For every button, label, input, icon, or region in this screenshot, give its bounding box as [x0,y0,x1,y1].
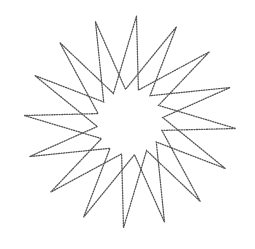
star-polygon-a [30,22,230,222]
star-diagram [0,0,255,249]
star-polygon-b [24,16,236,228]
